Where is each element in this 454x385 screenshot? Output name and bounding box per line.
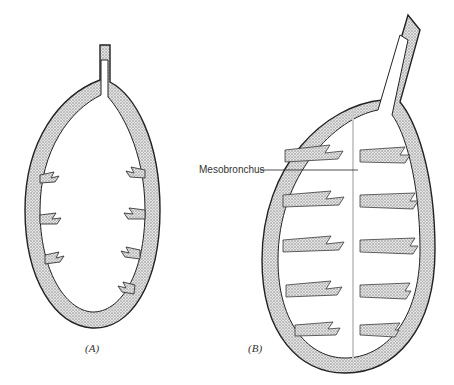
mesobronchus-label: Mesobronchus — [199, 164, 265, 175]
diagram-canvas — [0, 0, 454, 385]
caption-a: (A) — [85, 342, 99, 354]
caption-b: (B) — [248, 342, 262, 354]
lung-b — [260, 15, 435, 373]
lung-a — [25, 45, 160, 328]
